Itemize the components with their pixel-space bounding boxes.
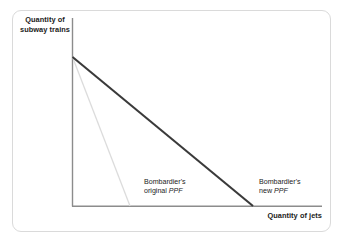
new-ppf-label-line2: new PPF: [259, 187, 301, 196]
original-ppf-label: Bombardier's original PPF: [144, 178, 186, 197]
original-ppf-line: [73, 57, 131, 206]
x-axis-label: Quantity of jets: [232, 211, 322, 221]
original-ppf-label-line1: Bombardier's: [144, 178, 186, 187]
y-axis-label: Quantity of subway trains: [20, 15, 70, 34]
original-ppf-label-abbr: PPF: [169, 187, 183, 195]
ppf-plot: [0, 0, 339, 243]
new-ppf-label: Bombardier's new PPF: [259, 178, 301, 197]
new-ppf-label-abbr: PPF: [274, 187, 288, 195]
original-ppf-label-line2: original PPF: [144, 187, 186, 196]
new-ppf-label-line1: Bombardier's: [259, 178, 301, 187]
original-ppf-label-prefix: original: [144, 187, 169, 195]
new-ppf-label-prefix: new: [259, 187, 274, 195]
